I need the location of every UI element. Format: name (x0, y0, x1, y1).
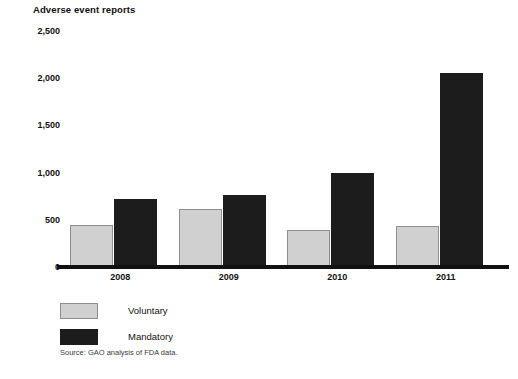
bar-group (70, 31, 171, 267)
bar-voluntary-2009 (179, 209, 222, 267)
x-axis-tick-label-2010: 2010 (293, 272, 381, 282)
chart-figure: Adverse event reports 05001,0001,5002,00… (0, 0, 518, 379)
bar-mandatory-2011 (440, 73, 483, 267)
legend-label-mandatory: Mandatory (128, 331, 173, 342)
bar-voluntary-2011 (396, 226, 439, 267)
bar-mandatory-2009 (223, 195, 266, 267)
y-axis-tick-label: 1,500 (37, 120, 60, 130)
bar-mandatory-2010 (331, 173, 374, 267)
chart-legend: Voluntary Mandatory (60, 300, 173, 352)
chart-axis-title: Adverse event reports (33, 4, 135, 15)
y-axis-tick-label: 1,000 (37, 168, 60, 178)
x-axis-tick-label-2009: 2009 (185, 272, 273, 282)
bar-voluntary-2008 (70, 225, 113, 267)
x-axis-baseline (57, 265, 509, 269)
y-axis-tick-label: 500 (45, 215, 60, 225)
bar-group (179, 31, 280, 267)
x-axis-tick-label-2011: 2011 (402, 272, 490, 282)
plot-area: 05001,0001,5002,0002,500 (66, 31, 500, 267)
bar-voluntary-2010 (287, 230, 330, 267)
legend-swatch-mandatory (60, 329, 98, 345)
x-axis-tick-label-2008: 2008 (76, 272, 164, 282)
legend-swatch-voluntary (60, 303, 98, 319)
source-note: Source: GAO analysis of FDA data. (60, 348, 178, 357)
bar-group (287, 31, 388, 267)
legend-label-voluntary: Voluntary (128, 305, 168, 316)
y-axis-tick-label: 2,500 (37, 26, 60, 36)
bar-group (396, 31, 497, 267)
legend-item-voluntary: Voluntary (60, 300, 173, 321)
bar-mandatory-2008 (114, 199, 157, 267)
legend-item-mandatory: Mandatory (60, 326, 173, 347)
y-axis-tick-label: 2,000 (37, 73, 60, 83)
